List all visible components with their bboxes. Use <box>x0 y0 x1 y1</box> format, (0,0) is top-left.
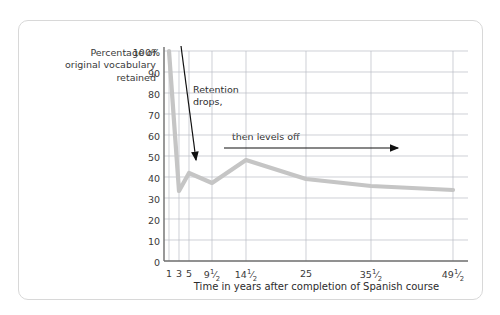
axis-lines <box>164 47 468 261</box>
retention-drops-arrow <box>181 46 196 160</box>
grid-horizontal <box>164 51 468 240</box>
chart-figure <box>0 0 500 315</box>
